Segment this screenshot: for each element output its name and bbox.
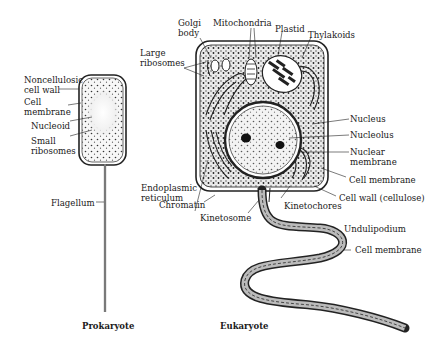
label-kinetochores: Kinetochores: [284, 201, 342, 211]
caption-prokaryote: Prokaryote: [82, 321, 134, 331]
label-flagellum: Flagellum: [51, 198, 95, 208]
label-chromatin: Chromatin: [159, 200, 205, 210]
label-nucleoid: Nucleoid: [31, 121, 70, 131]
label-large-ribosomes: Large ribosomes: [140, 48, 190, 68]
label-nucleus: Nucleus: [350, 114, 386, 124]
label-golgi-body: Golgi body: [178, 18, 208, 38]
label-cell-membrane-eukaryote: Cell membrane: [349, 175, 416, 185]
label-mitochondria: Mitochondria: [213, 18, 272, 28]
label-cell-wall-cellulose: Cell wall (cellulose): [339, 193, 425, 203]
label-small-ribosomes: Small ribosomes: [31, 136, 76, 156]
label-kinetosome: Kinetosome: [200, 213, 251, 223]
prokaryote-cell: [79, 75, 126, 312]
label-thylakoids: Thylakoids: [308, 30, 355, 40]
label-cell-membrane-undulipodium: Cell membrane: [355, 245, 422, 255]
label-plastid: Plastid: [275, 24, 305, 34]
label-cell-membrane-prokaryote: Cell membrane: [24, 97, 72, 117]
eukaryote-cell: [196, 41, 328, 202]
caption-eukaryote: Eukaryote: [220, 321, 268, 331]
label-noncellulosic-cell-wall: Noncellulosic cell wall: [24, 75, 84, 95]
label-undulipodium: Undulipodium: [344, 224, 406, 234]
label-nucleolus: Nucleolus: [350, 130, 394, 140]
label-nuclear-membrane: Nuclear membrane: [350, 147, 396, 167]
